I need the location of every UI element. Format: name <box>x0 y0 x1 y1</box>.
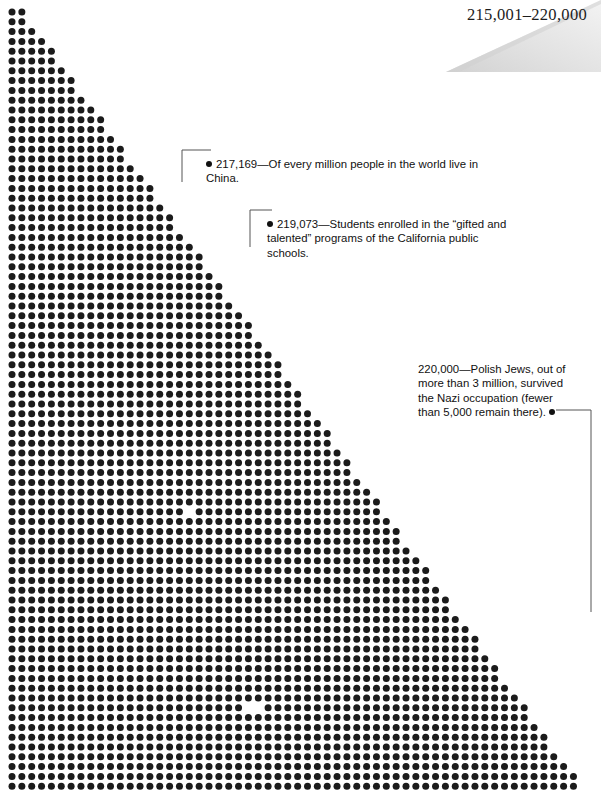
grid-dot <box>265 557 272 564</box>
grid-dot <box>471 753 478 760</box>
grid-dot <box>68 273 75 280</box>
grid-dot <box>87 283 94 290</box>
grid-dot <box>137 616 144 623</box>
grid-dot <box>176 234 183 241</box>
grid-dot <box>9 528 16 535</box>
grid-dot <box>28 616 35 623</box>
grid-dot <box>363 548 370 555</box>
grid-dot <box>294 783 301 790</box>
grid-dot <box>452 636 459 643</box>
grid-dot <box>117 518 124 525</box>
grid-dot <box>245 695 252 702</box>
grid-dot <box>166 273 173 280</box>
grid-dot <box>176 714 183 721</box>
grid-dot <box>225 626 232 633</box>
grid-dot <box>314 557 321 564</box>
grid-dot <box>412 753 419 760</box>
grid-dot <box>206 518 213 525</box>
grid-dot <box>117 655 124 662</box>
grid-dot <box>137 606 144 613</box>
annotation-bullet-icon <box>549 409 555 415</box>
grid-dot <box>9 665 16 672</box>
grid-dot <box>58 440 65 447</box>
grid-dot <box>304 508 311 515</box>
grid-dot <box>68 342 75 349</box>
grid-dot <box>117 489 124 496</box>
grid-dot <box>206 499 213 506</box>
grid-dot <box>343 518 350 525</box>
grid-dot <box>403 695 410 702</box>
grid-dot <box>383 518 390 525</box>
grid-dot <box>176 695 183 702</box>
grid-dot <box>334 744 341 751</box>
grid-dot <box>373 783 380 790</box>
grid-dot <box>265 734 272 741</box>
grid-dot <box>353 744 360 751</box>
grid-dot <box>196 763 203 770</box>
grid-dot <box>97 371 104 378</box>
grid-dot <box>9 744 16 751</box>
grid-dot <box>117 195 124 202</box>
grid-dot <box>38 195 45 202</box>
grid-dot <box>58 508 65 515</box>
grid-dot <box>294 430 301 437</box>
grid-dot <box>77 234 84 241</box>
grid-dot <box>284 567 291 574</box>
grid-dot <box>9 430 16 437</box>
grid-dot <box>9 714 16 721</box>
grid-dot <box>58 391 65 398</box>
grid-dot <box>403 685 410 692</box>
grid-dot <box>412 734 419 741</box>
grid-dot <box>176 312 183 319</box>
grid-dot <box>87 244 94 251</box>
grid-dot <box>127 254 134 261</box>
grid-dot <box>137 597 144 604</box>
grid-dot <box>235 665 242 672</box>
grid-dot <box>77 714 84 721</box>
grid-dot <box>432 734 439 741</box>
grid-dot <box>127 665 134 672</box>
grid-dot <box>284 675 291 682</box>
grid-dot <box>77 695 84 702</box>
grid-dot <box>87 783 94 790</box>
grid-dot <box>28 126 35 133</box>
grid-dot <box>265 459 272 466</box>
grid-dot <box>146 763 153 770</box>
grid-dot <box>28 469 35 476</box>
grid-dot <box>48 469 55 476</box>
grid-dot <box>265 450 272 457</box>
grid-dot <box>58 126 65 133</box>
grid-dot <box>48 293 55 300</box>
grid-dot <box>127 469 134 476</box>
grid-dot <box>324 469 331 476</box>
grid-dot <box>521 734 528 741</box>
grid-dot <box>176 773 183 780</box>
grid-dot <box>58 165 65 172</box>
grid-dot <box>334 675 341 682</box>
grid-dot <box>127 322 134 329</box>
grid-dot <box>353 763 360 770</box>
grid-dot <box>353 557 360 564</box>
grid-dot <box>225 499 232 506</box>
grid-dot <box>511 763 518 770</box>
grid-dot <box>117 528 124 535</box>
grid-dot <box>28 636 35 643</box>
grid-dot <box>107 518 114 525</box>
grid-dot <box>314 626 321 633</box>
grid-dot <box>324 763 331 770</box>
grid-dot <box>383 538 390 545</box>
grid-dot <box>58 557 65 564</box>
grid-dot <box>314 646 321 653</box>
grid-dot <box>28 136 35 143</box>
grid-dot <box>58 655 65 662</box>
grid-dot <box>9 293 16 300</box>
grid-dot <box>206 430 213 437</box>
grid-dot <box>117 371 124 378</box>
grid-dot <box>18 273 25 280</box>
grid-dot <box>206 773 213 780</box>
grid-dot <box>97 312 104 319</box>
grid-dot <box>255 695 262 702</box>
grid-dot <box>274 695 281 702</box>
grid-dot <box>284 528 291 535</box>
grid-dot <box>422 763 429 770</box>
